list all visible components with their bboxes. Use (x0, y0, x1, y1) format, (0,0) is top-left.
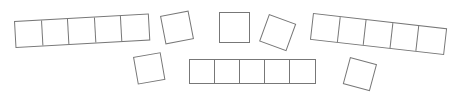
tile-cell (42, 19, 70, 45)
tile-cell (390, 23, 419, 51)
tile-cell (240, 60, 265, 83)
tile-cell (417, 26, 446, 54)
single-square-lower-right (343, 57, 377, 91)
tile-cell (364, 20, 393, 48)
single-square-upper-left (160, 10, 194, 44)
tile-cell (265, 60, 290, 83)
single-square-center-top (219, 12, 250, 43)
bottom-strip-5-squares (189, 59, 316, 84)
tile-cell (190, 60, 215, 83)
tile-cell (337, 17, 366, 45)
right-strip-5-squares (310, 13, 447, 55)
left-strip-5-squares (14, 13, 150, 47)
tile-cell (68, 17, 96, 43)
tile-canvas (0, 0, 459, 95)
tile-cell (15, 20, 43, 46)
single-square-upper-right (259, 14, 296, 51)
tile-cell (290, 60, 315, 83)
tile-cell (95, 16, 123, 42)
tile-cell (121, 15, 149, 41)
tile-cell (215, 60, 240, 83)
tile-cell (311, 14, 340, 42)
single-square-lower-left (133, 52, 165, 84)
